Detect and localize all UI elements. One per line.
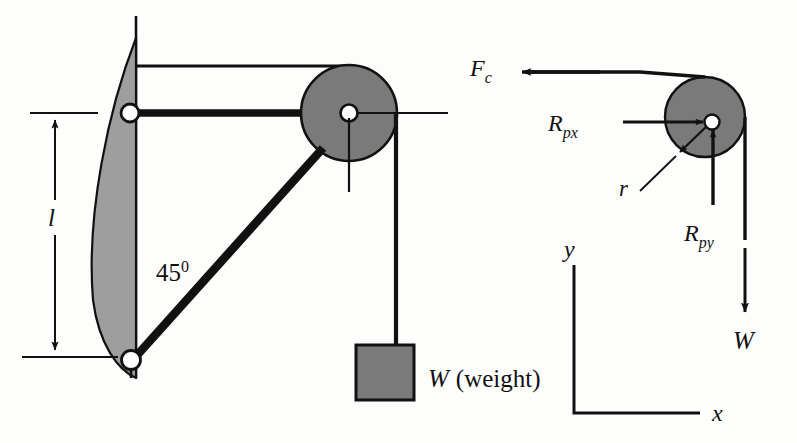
bottom-pivot-joint — [122, 351, 141, 370]
diagonal-link-bar — [131, 148, 323, 362]
force-label-Fc-base: F — [469, 55, 485, 81]
fbd-pulley-hub — [705, 115, 720, 130]
force-label-Fc-sub: c — [485, 69, 492, 86]
figure-root: l 450 W(weight) — [0, 0, 797, 443]
radius-label: r — [619, 176, 629, 201]
coordinate-axes — [574, 265, 700, 413]
diagram-canvas: l 450 W(weight) — [0, 0, 797, 443]
weight-symbol: W — [428, 365, 451, 392]
force-label-Rpy: Rpy — [683, 220, 715, 252]
force-label-Rpx-base: R — [547, 110, 563, 136]
force-label-Rpy-base: R — [683, 220, 699, 246]
force-label-W: W — [733, 327, 756, 354]
hanging-weight-block — [356, 345, 414, 400]
top-pivot-joint — [121, 104, 139, 122]
curved-spring-element — [92, 38, 136, 378]
mechanism-assembly: l 450 W(weight) — [22, 16, 541, 400]
angle-superscript: 0 — [181, 258, 189, 275]
weight-block-label: W(weight) — [428, 365, 541, 393]
axis-label-x: x — [711, 400, 723, 426]
weight-parenthetical: (weight) — [456, 365, 541, 393]
length-dimension-label: l — [48, 204, 55, 231]
force-label-Fc: Fc — [469, 55, 492, 86]
radius-leader-line — [640, 156, 676, 191]
angle-value: 45 — [156, 259, 181, 286]
angle-label: 450 — [156, 258, 189, 286]
force-label-Rpx: Rpx — [547, 110, 578, 142]
axis-label-y: y — [562, 236, 575, 262]
force-label-Rpx-sub: px — [562, 124, 578, 142]
force-label-Rpy-sub: py — [698, 234, 715, 252]
